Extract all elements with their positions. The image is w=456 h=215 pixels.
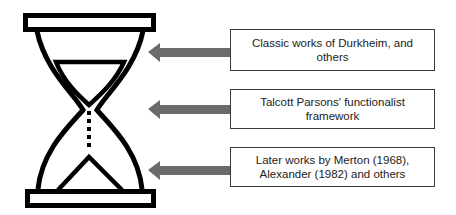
label-text-later-works: Later works by Merton (1968), Alexander … (239, 153, 426, 181)
arrow-middle (148, 100, 231, 119)
arrow-top (148, 43, 231, 62)
label-box-classic-works: Classic works of Durkheim, and others (230, 29, 435, 71)
label-text-parsons: Talcott Parsons' functionalist framework (239, 95, 426, 123)
arrow-bottom (148, 161, 231, 180)
label-box-parsons: Talcott Parsons' functionalist framework (230, 89, 435, 129)
label-text-classic-works: Classic works of Durkheim, and others (239, 36, 426, 64)
label-box-later-works: Later works by Merton (1968), Alexander … (230, 147, 435, 187)
